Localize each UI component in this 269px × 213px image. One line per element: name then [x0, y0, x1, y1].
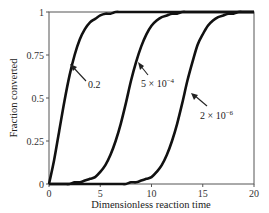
annotation-label: 2 × 10−6: [200, 109, 234, 121]
series-curves: [49, 12, 254, 184]
annotation-label: 0.2: [88, 79, 101, 90]
y-axis: 00.250.50.751: [27, 7, 50, 190]
annotation-2e-6: 2 × 10−6: [191, 93, 234, 121]
x-axis: 05101520: [47, 184, 260, 199]
curve-0.2: [49, 12, 254, 184]
chart: 00.250.50.751 05101520 0.2 5 × 10−4 2 × …: [0, 0, 269, 213]
arrow-head-icon: [191, 93, 198, 100]
y-tick-label: 1: [39, 7, 44, 18]
x-tick-label: 20: [249, 188, 259, 199]
y-tick-label: 0.25: [27, 136, 45, 147]
annotation-label: 5 × 10−4: [141, 77, 175, 89]
x-tick-label: 0: [47, 188, 52, 199]
x-axis-label: Dimensionless reaction time: [91, 199, 211, 210]
x-tick-label: 5: [98, 188, 103, 199]
x-tick-label: 10: [147, 188, 157, 199]
y-axis-label: Fraction converted: [8, 58, 19, 138]
y-tick-label: 0.75: [27, 50, 45, 61]
y-tick-label: 0.5: [32, 93, 45, 104]
annotation-0.2: 0.2: [70, 64, 101, 90]
x-tick-label: 15: [198, 188, 208, 199]
annotation-5e-4: 5 × 10−4: [138, 62, 175, 89]
y-tick-label: 0: [39, 179, 44, 190]
